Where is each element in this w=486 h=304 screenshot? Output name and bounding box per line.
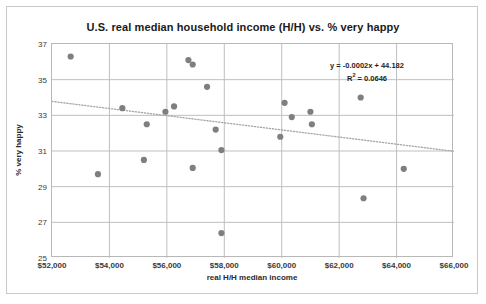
data-point-4 — [144, 121, 150, 127]
data-point-14 — [277, 134, 283, 140]
trendline-path — [52, 101, 454, 151]
data-point-1 — [95, 171, 101, 177]
data-point-6 — [171, 103, 177, 109]
data-point-21 — [401, 166, 407, 172]
data-point-9 — [190, 165, 196, 171]
data-point-2 — [119, 105, 125, 111]
data-point-7 — [185, 57, 191, 63]
trendline — [52, 101, 454, 151]
x-tick-label: $54,000 — [95, 261, 124, 270]
x-tick-label: $60,000 — [267, 261, 296, 270]
y-axis-label: % very happy — [14, 124, 23, 176]
y-tick-label: 27 — [38, 218, 47, 227]
data-point-16 — [289, 114, 295, 120]
data-point-18 — [309, 121, 315, 127]
data-point-20 — [360, 195, 366, 201]
x-tick-label: $58,000 — [210, 261, 239, 270]
trendline-r-squared: R2 = 0.0646 — [297, 72, 437, 84]
data-point-12 — [218, 147, 224, 153]
data-point-15 — [281, 100, 287, 106]
data-point-19 — [358, 94, 364, 100]
data-point-11 — [213, 127, 219, 133]
chart-frame: U.S. real median household income (H/H) … — [6, 6, 478, 294]
data-point-3 — [141, 157, 147, 163]
y-tick-label: 33 — [38, 111, 47, 120]
data-point-17 — [307, 109, 313, 115]
x-tick-label: $52,000 — [38, 261, 67, 270]
data-point-8 — [190, 61, 196, 67]
x-tick-label: $64,000 — [382, 261, 411, 270]
y-tick-label: 31 — [38, 147, 47, 156]
y-tick-label: 37 — [38, 40, 47, 49]
y-tick-label: 29 — [38, 182, 47, 191]
y-tick-label: 35 — [38, 75, 47, 84]
x-tick-label: $66,000 — [440, 261, 469, 270]
chart-title: U.S. real median household income (H/H) … — [7, 21, 479, 33]
data-point-10 — [204, 84, 210, 90]
x-tick-label: $62,000 — [325, 261, 354, 270]
data-point-0 — [68, 53, 74, 59]
trendline-annotation: y = -0.0002x + 44.182 R2 = 0.0646 — [297, 61, 437, 84]
trendline-equation: y = -0.0002x + 44.182 — [297, 61, 437, 72]
horizontal-gridlines — [52, 80, 454, 223]
x-axis-label: real H/H median income — [51, 273, 453, 282]
x-tick-label: $56,000 — [152, 261, 181, 270]
data-point-13 — [218, 230, 224, 236]
data-point-5 — [162, 109, 168, 115]
r-squared-value: = 0.0646 — [355, 73, 387, 82]
